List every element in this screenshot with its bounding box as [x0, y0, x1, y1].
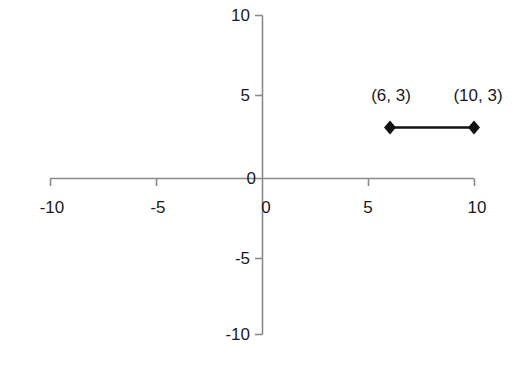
- data-point-marker-6-3: [384, 121, 396, 135]
- y-tick-label-5: 5: [241, 87, 250, 104]
- point-label-10-3: (10, 3): [453, 87, 502, 104]
- x-tick-label-neg5: -5: [150, 199, 165, 216]
- axes-and-data-svg: [0, 0, 523, 365]
- y-tick-label-0: 0: [247, 170, 256, 187]
- x-tick-label-10: 10: [468, 199, 487, 216]
- y-tick-label-neg5: -5: [235, 250, 250, 267]
- x-tick-label-5: 5: [363, 199, 372, 216]
- point-label-6-3: (6, 3): [371, 87, 411, 104]
- x-tick-label-0: 0: [261, 199, 270, 216]
- y-tick-label-neg10: -10: [225, 326, 250, 343]
- coordinate-plane: 10 5 0 -5 -10 -10 -5 0 5 10 (6, 3) (10, …: [0, 0, 523, 365]
- chart-canvas: 10 5 0 -5 -10 -10 -5 0 5 10 (6, 3) (10, …: [0, 0, 523, 365]
- data-point-marker-10-3: [468, 121, 480, 135]
- y-tick-label-10: 10: [231, 7, 250, 24]
- x-tick-label-neg10: -10: [40, 199, 65, 216]
